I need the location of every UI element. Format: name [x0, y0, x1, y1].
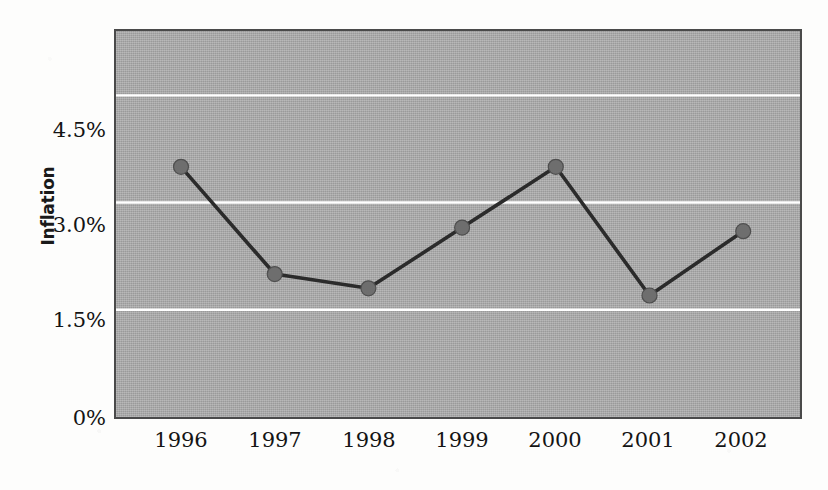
data-point-2001	[642, 288, 657, 303]
y-tick-label-1-5: 1.5%	[20, 310, 106, 331]
data-point-1999	[455, 220, 470, 235]
x-tick-label-1999: 1999	[417, 430, 507, 451]
data-markers	[174, 159, 751, 303]
x-tick-label-1998: 1998	[324, 430, 414, 451]
gridlines	[116, 95, 800, 309]
data-point-1998	[361, 281, 376, 296]
data-point-1996	[174, 159, 189, 174]
plot-area	[114, 29, 802, 419]
x-tick-label-2001: 2001	[603, 430, 693, 451]
data-point-2002	[736, 224, 751, 239]
x-tick-label-2000: 2000	[510, 430, 600, 451]
data-point-1997	[267, 267, 282, 282]
x-tick-label-2002: 2002	[696, 430, 786, 451]
plot-svg	[116, 31, 800, 417]
inflation-line-chart: Inflation 4.5% 3.0% 1.5% 0% 1996 1997 19…	[0, 0, 828, 490]
x-tick-label-1996: 1996	[136, 430, 226, 451]
y-axis-tick-labels: 4.5% 3.0% 1.5% 0%	[14, 0, 106, 490]
y-tick-label-0: 0%	[20, 408, 106, 429]
y-tick-label-4-5: 4.5%	[20, 120, 106, 141]
x-tick-label-1997: 1997	[230, 430, 320, 451]
data-point-2000	[548, 159, 563, 174]
x-axis-tick-labels: 1996 1997 1998 1999 2000 2001 2002	[0, 430, 828, 470]
y-tick-label-3-0: 3.0%	[20, 215, 106, 236]
